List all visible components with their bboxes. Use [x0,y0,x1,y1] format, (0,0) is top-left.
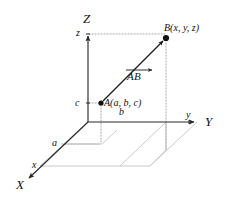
a-tick-label: a [52,138,57,148]
b-tick-label: b [119,107,124,117]
point-b-label: B(x, y, z) [164,23,199,33]
c-tick-label: c [75,98,79,108]
y-tick-label: y [186,110,190,120]
y-axis-label: Y [205,115,212,128]
point-b-marker [163,35,169,41]
x-tick-label: x [32,160,36,170]
point-a-label: A(a, b, c) [104,98,141,108]
x-axis-line [29,122,88,178]
vector-ab-label: AB [127,71,141,82]
point-a-marker [98,100,103,105]
z-tick-label: z [76,28,80,38]
x-axis-label: X [16,178,24,191]
z-axis-label: Z [83,12,90,25]
coordinate-diagram: Z Y X z c b y a x A(a, b, c) B(x, y, z) … [0,0,229,206]
